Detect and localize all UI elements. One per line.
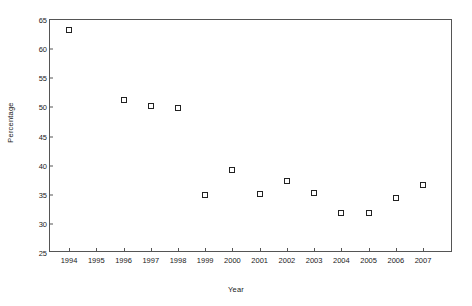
x-axis-tick-mark: [260, 248, 261, 251]
y-axis-tick-label: 35: [39, 190, 47, 199]
y-axis-tick-label: 60: [39, 45, 47, 54]
x-axis-tick-mark: [423, 248, 424, 251]
data-point-marker: [311, 190, 317, 196]
y-axis-tick-label: 65: [39, 16, 47, 25]
y-axis-tick-label: 55: [39, 74, 47, 83]
x-axis-tick-mark: [151, 248, 152, 251]
plot-area: 2530354045505560651994199519961997199819…: [49, 19, 452, 252]
x-axis-tick-label: 1999: [197, 256, 214, 265]
x-axis-tick-mark: [287, 248, 288, 251]
y-axis-tick-label: 25: [39, 249, 47, 258]
data-point-marker: [229, 167, 235, 173]
y-axis-tick-mark: [50, 165, 53, 166]
x-axis-tick-label: 2004: [333, 256, 350, 265]
scatter-chart-figure: Percentage 25303540455055606519941995199…: [0, 0, 472, 306]
y-axis-tick-label: 40: [39, 161, 47, 170]
data-point-marker: [393, 195, 399, 201]
y-axis-title: Percentage: [6, 83, 15, 163]
x-axis-tick-mark: [178, 248, 179, 251]
data-point-marker: [366, 210, 372, 216]
x-axis-tick-mark: [314, 248, 315, 251]
x-axis-tick-mark: [396, 248, 397, 251]
x-axis-tick-mark: [205, 248, 206, 251]
data-point-marker: [257, 191, 263, 197]
x-axis-tick-label: 1998: [170, 256, 187, 265]
x-axis-tick-mark: [232, 248, 233, 251]
x-axis-tick-mark: [124, 248, 125, 251]
data-point-marker: [121, 97, 127, 103]
x-axis-tick-mark: [69, 248, 70, 251]
x-axis-tick-label: 1995: [88, 256, 105, 265]
x-axis-title: Year: [0, 285, 472, 294]
y-axis-tick-mark: [50, 49, 53, 50]
x-axis-tick-mark: [96, 248, 97, 251]
y-axis-tick-label: 45: [39, 132, 47, 141]
x-axis-tick-label: 1996: [115, 256, 132, 265]
y-axis-tick-mark: [50, 194, 53, 195]
data-point-marker: [420, 182, 426, 188]
y-axis-tick-label: 50: [39, 103, 47, 112]
x-axis-tick-label: 2002: [279, 256, 296, 265]
y-axis-tick-mark: [50, 223, 53, 224]
data-point-marker: [66, 27, 72, 33]
x-axis-tick-label: 2007: [415, 256, 432, 265]
data-point-marker: [175, 105, 181, 111]
x-axis-tick-label: 2006: [387, 256, 404, 265]
x-axis-tick-label: 1994: [61, 256, 78, 265]
x-axis-tick-mark: [369, 248, 370, 251]
x-axis-tick-label: 2000: [224, 256, 241, 265]
data-point-marker: [202, 192, 208, 198]
x-axis-tick-label: 2001: [251, 256, 268, 265]
data-point-marker: [338, 210, 344, 216]
x-axis-tick-mark: [341, 248, 342, 251]
data-point-marker: [148, 103, 154, 109]
x-axis-tick-label: 2003: [306, 256, 323, 265]
y-axis-tick-mark: [50, 107, 53, 108]
x-axis-tick-label: 1997: [142, 256, 159, 265]
data-point-marker: [284, 178, 290, 184]
y-axis-tick-mark: [50, 136, 53, 137]
y-axis-tick-mark: [50, 78, 53, 79]
x-axis-tick-label: 2005: [360, 256, 377, 265]
y-axis-tick-label: 30: [39, 219, 47, 228]
